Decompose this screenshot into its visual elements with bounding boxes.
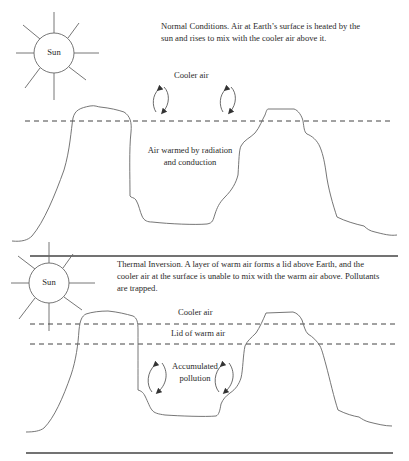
sun-label: Sun <box>29 277 69 287</box>
terrain-profile <box>12 106 397 242</box>
caption-line: Thermal Inversion. A layer of warm air f… <box>117 259 409 271</box>
warmed-air-label: Air warmed by radiation and conduction <box>140 145 240 168</box>
caption-line: Normal Conditions. Air at Earth’s surfac… <box>161 21 409 33</box>
caption-line: sun and rises to mix with the cooler air… <box>161 33 409 45</box>
caption-line: are trapped. <box>117 283 409 295</box>
thermal-inversion-caption: Thermal Inversion. A layer of warm air f… <box>117 259 409 294</box>
pollution-label-line: Accumulated <box>160 361 230 373</box>
pollution-label-line: pollution <box>160 373 230 385</box>
lid-of-warm-air-label: Lid of warm air <box>171 328 225 340</box>
circulation-arrow-icon <box>153 87 168 112</box>
cooler-air-label: Cooler air <box>174 70 209 82</box>
warmed-air-label-line: Air warmed by radiation <box>140 145 240 157</box>
caption-line: cooler air at the surface is unable to m… <box>117 271 409 283</box>
circulation-arrow-icon <box>220 87 235 112</box>
cooler-air-label: Cooler air <box>178 307 213 319</box>
normal-conditions-caption: Normal Conditions. Air at Earth’s surfac… <box>161 21 409 45</box>
warmed-air-label-line: and conduction <box>140 157 240 169</box>
accumulated-pollution-label: Accumulated pollution <box>160 361 230 384</box>
sun-label: Sun <box>34 47 74 57</box>
